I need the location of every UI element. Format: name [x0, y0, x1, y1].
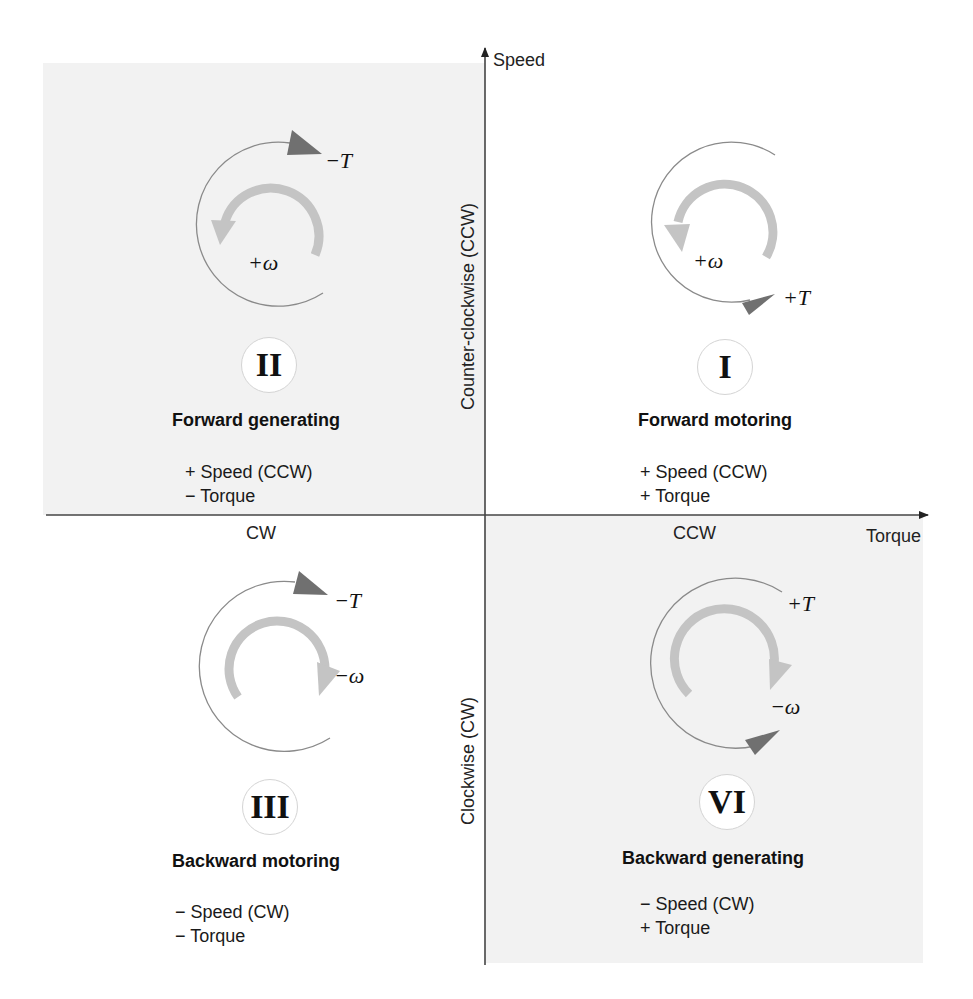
quadrant-vi-speed-line: − Speed (CW) [640, 892, 755, 916]
speed-axis-label: Speed [493, 50, 545, 71]
speed-arrowhead-icon [664, 224, 690, 252]
quadrant-i-speed-line: + Speed (CCW) [640, 460, 768, 484]
speed-arrowhead-icon [769, 659, 792, 690]
diagram-graphics [0, 0, 973, 999]
cw-side-label: Clockwise (CW) [458, 697, 479, 825]
quadrant-vi-title: Backward generating [622, 848, 804, 869]
quadrant-i-rotation-icon [652, 142, 775, 315]
quadrant-iii-rotation-icon [199, 571, 340, 751]
torque-arrowhead-icon [745, 730, 780, 755]
quadrant-i-speed-symbol: +ω [693, 248, 723, 274]
quadrant-vi-numeral: VI [699, 774, 755, 830]
quadrant-i-title: Forward motoring [638, 410, 792, 431]
quadrant-ii-title: Forward generating [172, 410, 340, 431]
quadrant-iii-speed-symbol: −ω [334, 663, 364, 689]
torque-arrowhead-icon [287, 130, 322, 155]
quadrant-ii-torque-line: − Torque [185, 484, 255, 508]
quadrant-iii-title: Backward motoring [172, 851, 340, 872]
quadrant-i-numeral: I [697, 339, 753, 395]
quadrant-iii-numeral: III [242, 779, 298, 835]
torque-axis-label: Torque [866, 526, 921, 547]
quadrant-ii-torque-symbol: −T [325, 148, 352, 174]
quadrant-ii-speed-line: + Speed (CCW) [185, 460, 313, 484]
quadrant-i-torque-symbol: +T [783, 285, 810, 311]
speed-arrowhead-icon [211, 220, 236, 245]
ccw-side-label: Counter-clockwise (CCW) [458, 203, 479, 410]
quadrant-vi-rotation-icon [651, 578, 792, 755]
quadrant-vi-speed-symbol: −ω [770, 694, 800, 720]
quadrant-i-torque-line: + Torque [640, 484, 710, 508]
quadrant-vi-torque-symbol: +T [787, 591, 814, 617]
torque-arrowhead-icon [293, 571, 328, 595]
quadrant-iii-torque-line: − Torque [175, 924, 245, 948]
torque-arrowhead-icon [742, 294, 775, 315]
ccw-axis-label: CCW [673, 523, 716, 544]
quadrant-vi-torque-line: + Torque [640, 916, 710, 940]
quadrant-ii-rotation-icon [196, 130, 323, 306]
quadrant-ii-speed-symbol: +ω [248, 250, 278, 276]
quadrant-iii-torque-symbol: −T [334, 588, 361, 614]
quadrant-iii-speed-line: − Speed (CW) [175, 900, 290, 924]
quadrant-ii-numeral: II [241, 337, 297, 393]
cw-axis-label: CW [246, 523, 276, 544]
